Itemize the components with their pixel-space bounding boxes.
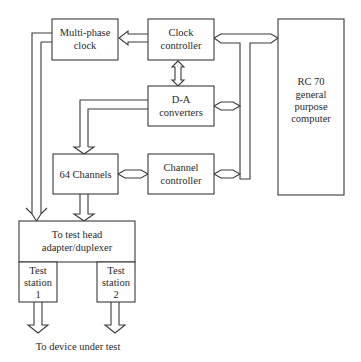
clock-controller-block: Clock controller: [148, 19, 214, 60]
da-converters-label-1: D-A: [172, 94, 191, 105]
test-station-2-block: Test station 2: [97, 262, 135, 302]
adapter-label-1: To test head: [52, 229, 103, 240]
test-station-1-block: Test station 1: [19, 262, 57, 302]
channels-chanctrl-bus: [118, 170, 148, 178]
da-to-channels-bus: [74, 100, 148, 154]
clockctrl-da-bus: [172, 61, 184, 86]
station2-label-1: Test: [107, 265, 124, 276]
station1-label-2: station: [24, 277, 53, 288]
station1-label-1: Test: [29, 265, 46, 276]
adapter-label-2: adapter/duplexer: [42, 242, 113, 253]
computer-block: RC 70 general purpose computer: [278, 19, 344, 195]
adapter-block: To test head adapter/duplexer: [19, 221, 135, 262]
chanctrl-to-bus: [214, 170, 240, 178]
station2-label-2: station: [102, 277, 131, 288]
station1-output-arrow: [28, 302, 48, 333]
channel-controller-block: Channel controller: [148, 154, 214, 194]
da-converters-label-2: converters: [159, 107, 203, 118]
multiphase-clock-block: Multi-phase clock: [52, 19, 118, 60]
device-under-test-caption: To device under test: [36, 341, 121, 352]
computer-label-4: computer: [291, 113, 331, 124]
channel-controller-label-1: Channel: [164, 162, 199, 173]
station1-label-3: 1: [35, 289, 40, 300]
channel-controller-label-2: controller: [161, 175, 202, 186]
computer-label-3: purpose: [294, 101, 328, 112]
clock-controller-label-1: Clock: [168, 27, 194, 38]
clockctrl-to-multiphase-bus: [119, 31, 148, 45]
computer-label-1: RC 70: [297, 76, 324, 87]
clock-controller-label-2: controller: [161, 40, 202, 51]
computer-label-2: general: [296, 89, 327, 100]
clock-to-adapter-bus: [26, 33, 52, 221]
multiphase-clock-label-1: Multi-phase: [60, 27, 111, 38]
channels-label: 64 Channels: [59, 169, 111, 180]
multiphase-clock-label-2: clock: [74, 40, 97, 51]
channels-to-adapter-bus: [74, 194, 94, 221]
station2-label-3: 2: [113, 289, 118, 300]
da-to-bus: [214, 102, 240, 110]
block-diagram: Multi-phase clock Clock controller D-A c…: [0, 0, 361, 362]
da-converters-block: D-A converters: [148, 86, 214, 126]
station2-output-arrow: [105, 302, 125, 333]
channels-block: 64 Channels: [53, 154, 118, 194]
